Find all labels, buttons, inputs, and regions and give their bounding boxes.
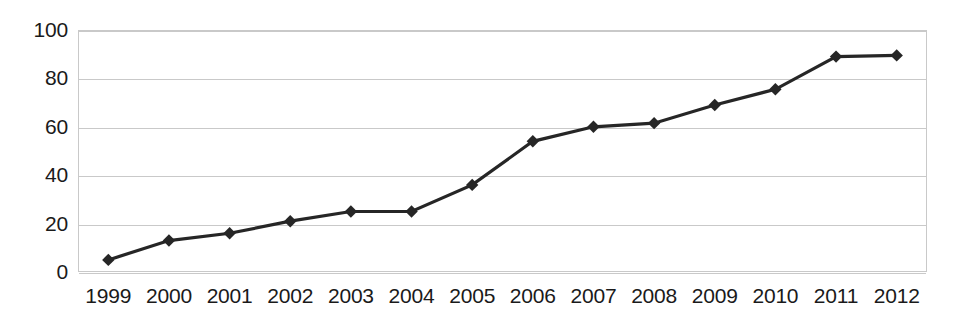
y-tick-label-0: 0 [8, 261, 68, 282]
line-chart: 020406080100 199920002001200220032004200… [0, 0, 953, 335]
x-tick-label-2012: 2012 [852, 284, 942, 308]
gridline-40 [79, 176, 926, 177]
y-tick-label-40: 40 [8, 164, 68, 185]
gridline-100 [79, 31, 926, 32]
y-tick-label-100: 100 [8, 19, 68, 40]
gridline-60 [79, 128, 926, 129]
x-axis: 1999200020012002200320042005200620072008… [0, 284, 953, 318]
gridline-0 [79, 273, 926, 274]
y-tick-label-60: 60 [8, 116, 68, 137]
gridline-80 [79, 79, 926, 80]
y-tick-label-80: 80 [8, 67, 68, 88]
y-tick-label-20: 20 [8, 213, 68, 234]
plot-area [78, 30, 927, 272]
gridline-20 [79, 225, 926, 226]
